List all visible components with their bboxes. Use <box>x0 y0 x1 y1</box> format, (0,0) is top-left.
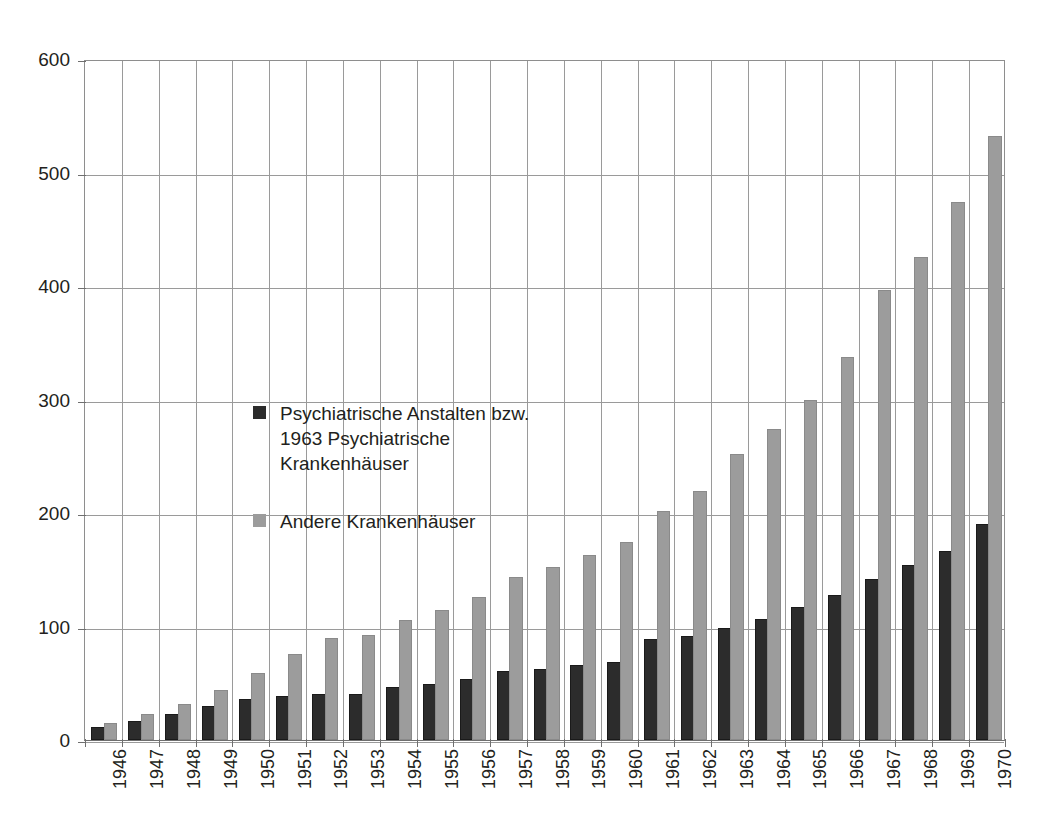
bar-1957-series1 <box>497 671 511 740</box>
x-axis-tick <box>269 739 270 747</box>
bar-1967-series2 <box>878 290 892 740</box>
x-axis-tick <box>306 739 307 747</box>
x-axis-tick-label: 1962 <box>700 749 721 789</box>
x-axis-tick-label: 1958 <box>553 749 574 789</box>
bar-1962-series1 <box>681 636 695 740</box>
bar-1968-series1 <box>902 565 916 740</box>
bar-1964-series2 <box>767 429 781 740</box>
x-axis-tick <box>527 739 528 747</box>
x-axis-tick-label: 1969 <box>958 749 979 789</box>
x-axis-tick-label: 1954 <box>405 749 426 789</box>
bar-1959-series1 <box>570 665 584 740</box>
bar-1950-series2 <box>251 673 265 740</box>
x-axis-tick-label: 1963 <box>737 749 758 789</box>
x-axis-tick-label: 1970 <box>995 749 1016 789</box>
bar-1958-series1 <box>534 669 548 740</box>
y-axis-tick-label: 400 <box>8 276 70 298</box>
bar-1948-series1 <box>165 714 179 740</box>
bar-1946-series2 <box>104 723 118 740</box>
legend-label-other: Andere Krankenhäuser <box>280 509 475 534</box>
gridline-vertical <box>159 61 160 740</box>
legend-label-psychiatric: Psychiatrische Anstalten bzw. 1963 Psych… <box>280 401 583 476</box>
bar-1966-series2 <box>841 357 855 740</box>
x-axis-tick-label: 1949 <box>221 749 242 789</box>
bar-1954-series2 <box>399 620 413 740</box>
x-axis-tick <box>748 739 749 747</box>
y-axis-tick-label: 200 <box>8 503 70 525</box>
x-axis-tick-label: 1957 <box>516 749 537 789</box>
x-axis-tick <box>785 739 786 747</box>
x-axis-tick-label: 1960 <box>626 749 647 789</box>
x-axis-tick <box>380 739 381 747</box>
bar-1955-series2 <box>435 610 449 740</box>
gridline-vertical <box>932 61 933 740</box>
bar-1952-series1 <box>312 694 326 740</box>
y-axis-tick-label: 100 <box>8 617 70 639</box>
x-axis-tick <box>122 739 123 747</box>
bar-1949-series2 <box>214 690 228 740</box>
y-axis-tick-label: 300 <box>8 390 70 412</box>
x-axis-tick <box>859 739 860 747</box>
legend-swatch-light-icon <box>253 514 266 527</box>
y-axis-tick <box>78 629 86 630</box>
bar-1952-series2 <box>325 638 339 740</box>
x-axis-tick-label: 1952 <box>331 749 352 789</box>
bar-1950-series1 <box>239 699 253 740</box>
y-axis-tick-label: 500 <box>8 163 70 185</box>
x-axis-tick <box>711 739 712 747</box>
bar-1956-series2 <box>472 597 486 740</box>
bar-1963-series1 <box>718 628 732 740</box>
bar-1965-series2 <box>804 400 818 740</box>
x-axis-tick <box>895 739 896 747</box>
bar-1967-series1 <box>865 579 879 740</box>
clipped-header-text <box>0 0 1044 3</box>
y-axis-tick <box>78 402 86 403</box>
y-axis-tick-label: 600 <box>8 49 70 71</box>
bar-1958-series2 <box>546 567 560 740</box>
gridline-vertical <box>822 61 823 740</box>
y-axis-tick <box>78 175 86 176</box>
bar-1968-series2 <box>914 257 928 740</box>
x-axis-tick <box>343 739 344 747</box>
bar-1951-series1 <box>276 696 290 740</box>
y-axis-tick <box>78 61 86 62</box>
bar-1961-series1 <box>644 639 658 740</box>
y-axis-tick <box>78 288 86 289</box>
gridline-vertical <box>674 61 675 740</box>
bar-1961-series2 <box>657 511 671 740</box>
bar-1970-series1 <box>976 524 990 741</box>
bar-1960-series1 <box>607 662 621 740</box>
x-axis-tick <box>564 739 565 747</box>
bar-1953-series1 <box>349 694 363 740</box>
bar-1970-series2 <box>988 136 1002 740</box>
x-axis-tick <box>196 739 197 747</box>
x-axis-tick <box>490 739 491 747</box>
gridline-vertical <box>785 61 786 740</box>
bar-1969-series2 <box>951 202 965 740</box>
bar-1947-series1 <box>128 721 142 740</box>
bar-1956-series1 <box>460 679 474 740</box>
gridline-vertical <box>711 61 712 740</box>
x-axis-tick-label: 1965 <box>810 749 831 789</box>
bar-1966-series1 <box>828 595 842 740</box>
x-axis-tick-label: 1959 <box>589 749 610 789</box>
bar-1953-series2 <box>362 635 376 740</box>
x-axis-tick <box>85 739 86 747</box>
x-axis-tick-label: 1955 <box>442 749 463 789</box>
bar-1969-series1 <box>939 551 953 740</box>
x-axis-tick <box>969 739 970 747</box>
x-axis-tick-label: 1946 <box>110 749 131 789</box>
x-axis-tick-label: 1950 <box>258 749 279 789</box>
x-axis-tick <box>232 739 233 747</box>
gridline-vertical <box>895 61 896 740</box>
x-axis-tick <box>453 739 454 747</box>
bar-1963-series2 <box>730 454 744 740</box>
x-axis-tick <box>638 739 639 747</box>
x-axis-tick <box>159 739 160 747</box>
bar-1957-series2 <box>509 577 523 740</box>
x-axis-tick <box>601 739 602 747</box>
gridline-vertical <box>196 61 197 740</box>
x-axis-tick-label: 1964 <box>774 749 795 789</box>
legend-swatch-dark-icon <box>253 406 266 419</box>
gridline-vertical <box>122 61 123 740</box>
